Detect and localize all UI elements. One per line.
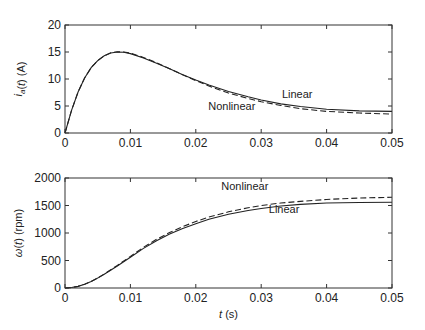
x-tick-label: 0.03: [250, 136, 274, 150]
y-tick-label: 0: [54, 281, 61, 295]
x-tick-label: 0.03: [250, 291, 274, 305]
annotation-nonlinear: Nonlinear: [221, 180, 268, 192]
speed-axes-frame: [65, 178, 392, 288]
x-tick-label: 0.04: [315, 136, 339, 150]
x-tick-label: 0.04: [315, 291, 339, 305]
speed-x-axis-label: t (s): [219, 308, 238, 320]
x-tick-label: 0.02: [184, 291, 208, 305]
y-tick-label: 500: [41, 254, 61, 268]
speed-y-axis-label: ω(t) (rpm): [12, 209, 24, 257]
annotation-linear: Linear: [282, 88, 313, 100]
y-tick-label: 10: [48, 72, 62, 86]
x-tick-label: 0.01: [119, 136, 143, 150]
armature-current-y-axis-label: ia(t) (A): [12, 61, 27, 96]
x-tick-label: 0.02: [184, 136, 208, 150]
x-tick-label: 0.05: [380, 291, 404, 305]
armature-current-nonlinear-line: [65, 52, 392, 133]
y-tick-label: 20: [48, 18, 62, 32]
x-tick-label: 0: [62, 136, 69, 150]
y-tick-label: 15: [48, 45, 62, 59]
x-tick-label: 0.05: [380, 136, 404, 150]
x-tick-label: 0: [62, 291, 69, 305]
speed-plot: 00.010.020.030.040.050500100015002000Non…: [12, 171, 404, 320]
y-tick-label: 2000: [34, 171, 61, 185]
armature-current-plot: 00.010.020.030.040.0505101520LinearNonli…: [12, 18, 404, 150]
speed-nonlinear-line: [65, 197, 392, 288]
y-tick-label: 5: [54, 99, 61, 113]
y-tick-label: 0: [54, 126, 61, 140]
annotation-linear: Linear: [269, 203, 300, 215]
x-tick-label: 0.01: [119, 291, 143, 305]
armature-current-axes-frame: [65, 25, 392, 133]
y-tick-label: 1000: [34, 226, 61, 240]
figure: 00.010.020.030.040.0505101520LinearNonli…: [0, 0, 425, 330]
annotation-nonlinear: Nonlinear: [208, 100, 255, 112]
speed-linear-line: [65, 202, 392, 288]
y-tick-label: 1500: [34, 199, 61, 213]
